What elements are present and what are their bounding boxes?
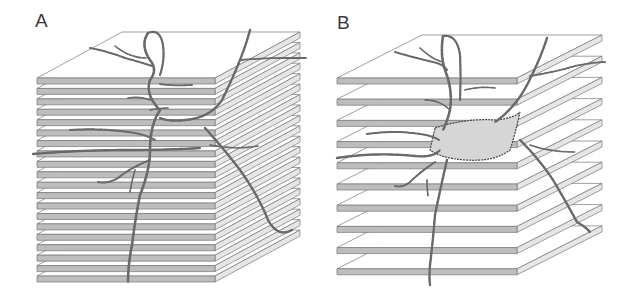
slice-stack-b (315, 0, 630, 295)
panel-b: B (315, 0, 630, 295)
panel-a: A (0, 0, 315, 295)
slice-stack-a (0, 0, 315, 295)
